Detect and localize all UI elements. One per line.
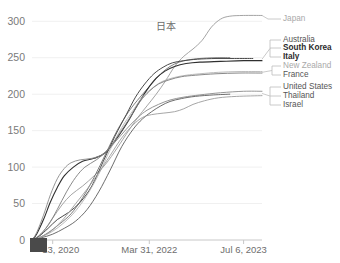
y-axis-tick-label: 150 (7, 124, 25, 136)
series-line (32, 15, 262, 240)
legend-item-france[interactable]: France (283, 70, 309, 79)
series-annotation-japan: 日本 (156, 20, 176, 32)
y-axis-tick-label: 0 (19, 234, 25, 246)
x-axis-tick-label: 13, 2020 (42, 244, 79, 255)
gridlines (32, 21, 262, 203)
chart-container: 050100150200250300 13, 2020Mar 31, 2022J… (0, 0, 340, 263)
series-line (32, 61, 262, 240)
series-line (32, 58, 230, 240)
legend-item-japan[interactable]: Japan (283, 14, 306, 23)
redacted-label-box (30, 238, 47, 252)
x-axis-tick-labels: 13, 2020Mar 31, 2022Jul 6, 2023 (42, 244, 267, 255)
y-axis-tick-label: 100 (7, 161, 25, 173)
x-axis-tick-label: Jul 6, 2023 (220, 244, 266, 255)
line-chart: 050100150200250300 13, 2020Mar 31, 2022J… (0, 0, 340, 263)
y-axis-tick-label: 200 (7, 88, 25, 100)
legend-item-south-korea[interactable]: South Korea (283, 43, 332, 52)
legend-item-italy[interactable]: Italy (283, 52, 300, 61)
legend-item-new-zealand[interactable]: New Zealand (283, 61, 332, 70)
legend-item-united-states[interactable]: United States (283, 82, 332, 91)
legend-item-israel[interactable]: Israel (283, 100, 303, 109)
legend-leader-lines (262, 15, 281, 105)
y-axis-tick-label: 250 (7, 51, 25, 63)
y-axis-tick-label: 300 (7, 15, 25, 27)
series-line (32, 58, 253, 240)
legend: JapanAustraliaSouth KoreaItalyNew Zealan… (283, 14, 332, 109)
y-axis-tick-label: 50 (13, 197, 25, 209)
redaction-overlay (30, 238, 47, 252)
x-axis-tick-label: Mar 31, 2022 (121, 244, 177, 255)
legend-item-thailand[interactable]: Thailand (283, 91, 315, 100)
chart-annotations: 日本 (156, 20, 176, 32)
data-series-lines (32, 15, 262, 240)
y-axis-tick-labels: 050100150200250300 (7, 15, 25, 246)
